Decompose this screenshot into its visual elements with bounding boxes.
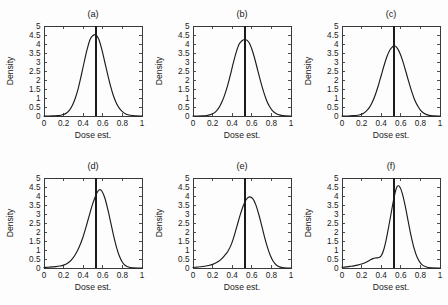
- x-tick-label: 0.6: [246, 119, 258, 128]
- x-tick-label: 1: [140, 271, 145, 280]
- plot-frame: [342, 26, 440, 116]
- density-curve: [193, 39, 291, 116]
- x-tick-label: 1: [289, 271, 294, 280]
- y-tick-label: 0.5: [29, 103, 41, 112]
- x-tick-label: 0.4: [78, 119, 90, 128]
- plot-frame: [193, 26, 291, 116]
- y-tick-label: 0.5: [327, 255, 339, 264]
- y-tick-label: 3.5: [327, 49, 339, 58]
- x-axis-title: Dose est.: [373, 130, 409, 140]
- y-tick-label: 5: [334, 174, 339, 183]
- x-tick-label: 1: [140, 119, 145, 128]
- chart-panel-a: (a)00.20.40.60.8100.511.522.533.544.55De…: [0, 0, 149, 152]
- y-tick-label: 1: [185, 94, 190, 103]
- y-tick-label: 4.5: [327, 31, 339, 40]
- y-tick-label: 5: [185, 174, 190, 183]
- y-tick-label: 4: [36, 192, 41, 201]
- y-tick-label: 0: [334, 264, 339, 273]
- x-tick-label: 0: [191, 119, 196, 128]
- y-tick-label: 2.5: [327, 219, 339, 228]
- plot-frame: [44, 178, 142, 268]
- x-axis-title: Dose est.: [75, 282, 111, 292]
- density-curve: [193, 197, 291, 268]
- density-figure: (a)00.20.40.60.8100.511.522.533.544.55De…: [0, 0, 448, 305]
- x-tick-label: 0.4: [227, 271, 239, 280]
- x-tick-label: 0.2: [356, 271, 368, 280]
- panel-title: (e): [236, 161, 247, 171]
- y-tick-label: 3: [36, 210, 41, 219]
- x-tick-label: 0.8: [415, 271, 427, 280]
- y-tick-label: 3: [185, 58, 190, 67]
- x-tick-label: 0.4: [376, 271, 388, 280]
- x-tick-label: 0.2: [356, 119, 368, 128]
- chart-panel-b: (b)00.20.40.60.8100.511.522.533.544.55De…: [149, 0, 298, 152]
- chart-panel-c: (c)00.20.40.60.8100.511.522.533.544.55De…: [298, 0, 447, 152]
- y-axis-title: Density: [5, 56, 15, 85]
- x-tick-label: 0.8: [117, 271, 129, 280]
- y-tick-label: 3.5: [29, 49, 41, 58]
- x-axis-title: Dose est.: [224, 130, 260, 140]
- x-axis-title: Dose est.: [75, 130, 111, 140]
- y-tick-label: 2.5: [29, 219, 41, 228]
- x-tick-label: 0.8: [117, 119, 129, 128]
- y-tick-label: 4: [334, 40, 339, 49]
- x-tick-label: 0.8: [415, 119, 427, 128]
- x-tick-label: 0.4: [376, 119, 388, 128]
- y-tick-label: 1.5: [178, 237, 190, 246]
- y-tick-label: 4.5: [178, 31, 190, 40]
- y-tick-label: 0.5: [178, 103, 190, 112]
- x-axis-title: Dose est.: [373, 282, 409, 292]
- y-tick-label: 4.5: [178, 183, 190, 192]
- y-tick-label: 1.5: [29, 237, 41, 246]
- y-axis-title: Density: [154, 56, 164, 85]
- y-tick-label: 4: [185, 40, 190, 49]
- panel-title: (d): [87, 161, 98, 171]
- chart-panel-e: (e)00.20.40.60.8100.511.522.533.544.55De…: [149, 152, 298, 304]
- y-tick-label: 2.5: [327, 67, 339, 76]
- x-tick-label: 0.2: [58, 119, 70, 128]
- x-tick-label: 0: [42, 119, 47, 128]
- y-tick-label: 4: [185, 192, 190, 201]
- x-tick-label: 0.2: [58, 271, 70, 280]
- x-tick-label: 1: [438, 271, 443, 280]
- panel-title: (a): [87, 9, 98, 19]
- x-tick-label: 1: [289, 119, 294, 128]
- y-tick-label: 1: [334, 246, 339, 255]
- y-tick-label: 2: [185, 228, 190, 237]
- y-tick-label: 0.5: [29, 255, 41, 264]
- x-tick-label: 0: [191, 271, 196, 280]
- y-axis-title: Density: [5, 208, 15, 237]
- y-tick-label: 1: [334, 94, 339, 103]
- density-curve: [342, 186, 440, 268]
- y-tick-label: 0: [36, 112, 41, 121]
- panel-title: (f): [387, 161, 396, 171]
- y-tick-label: 4.5: [327, 183, 339, 192]
- y-tick-label: 0.5: [178, 255, 190, 264]
- y-tick-label: 0: [36, 264, 41, 273]
- y-tick-label: 2: [334, 76, 339, 85]
- y-tick-label: 3: [36, 58, 41, 67]
- x-axis-title: Dose est.: [224, 282, 260, 292]
- density-curve: [44, 190, 142, 268]
- y-tick-label: 2: [185, 76, 190, 85]
- y-tick-label: 1.5: [327, 85, 339, 94]
- y-tick-label: 1.5: [327, 237, 339, 246]
- y-tick-label: 5: [334, 22, 339, 31]
- y-tick-label: 2: [36, 76, 41, 85]
- y-axis-title: Density: [303, 56, 313, 85]
- y-axis-title: Density: [154, 208, 164, 237]
- x-tick-label: 0.4: [227, 119, 239, 128]
- x-tick-label: 0.2: [207, 119, 219, 128]
- y-tick-label: 3.5: [178, 201, 190, 210]
- y-tick-label: 5: [36, 22, 41, 31]
- x-tick-label: 0: [340, 271, 345, 280]
- y-tick-label: 0: [185, 264, 190, 273]
- x-tick-label: 0.8: [266, 271, 278, 280]
- y-tick-label: 4: [36, 40, 41, 49]
- panel-title: (b): [236, 9, 247, 19]
- x-tick-label: 0: [42, 271, 47, 280]
- y-tick-label: 1.5: [178, 85, 190, 94]
- x-tick-label: 0.6: [395, 119, 407, 128]
- y-tick-label: 1: [36, 246, 41, 255]
- x-tick-label: 0.2: [207, 271, 219, 280]
